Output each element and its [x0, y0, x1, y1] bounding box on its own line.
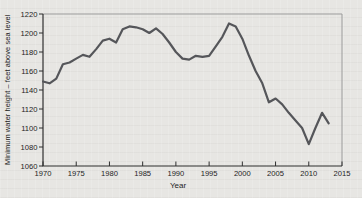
plot-frame [43, 14, 342, 166]
x-tick-label: 2015 [334, 169, 351, 178]
y-tick-label: 1120 [21, 105, 37, 114]
y-tick-label: 1160 [21, 67, 37, 76]
y-tick-label: 1180 [21, 48, 37, 57]
x-tick-label: 1980 [101, 169, 118, 178]
water-height-line-chart-figure: 1060108011001120114011601180120012201970… [0, 0, 362, 198]
x-tick-label: 2000 [234, 169, 251, 178]
x-tick-label: 2005 [267, 169, 284, 178]
x-tick-label: 2010 [300, 169, 317, 178]
y-tick-label: 1100 [21, 124, 37, 133]
y-tick-label: 1080 [21, 143, 38, 152]
line-chart-canvas: 1060108011001120114011601180120012201970… [0, 0, 362, 198]
y-tick-label: 1140 [21, 86, 37, 95]
y-axis-title: Minimum water height – feet above sea le… [1, 2, 13, 178]
axis-lines [43, 14, 342, 166]
x-tick-label: 1985 [134, 169, 151, 178]
data-line-minimum-water-height [43, 24, 329, 145]
x-tick-label: 1975 [68, 169, 85, 178]
y-tick-label: 1220 [21, 10, 38, 19]
x-tick-label: 1970 [35, 169, 52, 178]
x-tick-label: 1995 [201, 169, 218, 178]
x-axis-title: Year [43, 181, 313, 190]
y-tick-label: 1200 [21, 29, 38, 38]
x-tick-label: 1990 [167, 169, 184, 178]
